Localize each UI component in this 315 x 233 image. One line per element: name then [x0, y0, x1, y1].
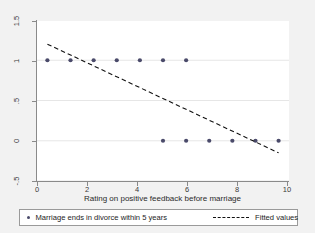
filled-circle-marker-icon	[27, 216, 30, 219]
y-axis-tick-label-point-5: .5	[12, 84, 22, 118]
data-point-marker	[161, 139, 165, 143]
chart-figure: 1.5 1 .5 0 -.5 0 2 4 6 8 10 Rating on po…	[0, 0, 315, 233]
data-point-marker	[207, 139, 211, 143]
y-axis-tick-label-1-5: 1.5	[12, 4, 22, 38]
x-axis-tick-label-10: 10	[276, 185, 298, 194]
x-axis-title: Rating on positive feedback before marri…	[36, 194, 289, 203]
chart-legend: Marriage ends in divorce within 5 years …	[19, 209, 298, 226]
data-point-marker	[230, 139, 234, 143]
x-axis-tick-label-2: 2	[76, 185, 98, 194]
legend-label-scatter: Marriage ends in divorce within 5 years	[35, 213, 167, 222]
data-point-marker	[161, 58, 165, 62]
y-axis-tick-label-0: 0	[12, 124, 22, 158]
data-point-marker	[138, 58, 142, 62]
data-point-marker	[277, 139, 281, 143]
x-axis-tick-label-0: 0	[26, 185, 48, 194]
data-point-marker	[92, 58, 96, 62]
legend-label-fitted: Fitted values	[255, 213, 298, 222]
data-point-marker	[68, 58, 72, 62]
x-axis-tick-label-8: 8	[226, 185, 248, 194]
legend-entry-fitted: Fitted values	[213, 213, 298, 222]
x-axis-tick-label-4: 4	[126, 185, 148, 194]
data-point-marker	[115, 58, 119, 62]
y-axis-tick-label-neg-point-5: -.5	[12, 164, 22, 198]
legend-entry-scatter: Marriage ends in divorce within 5 years	[27, 213, 167, 222]
data-point-marker	[45, 58, 49, 62]
data-point-marker	[184, 139, 188, 143]
x-axis-tick-label-6: 6	[176, 185, 198, 194]
y-axis-tick-label-1: 1	[12, 44, 22, 78]
dashed-line-marker-icon	[213, 217, 249, 218]
plot-area	[36, 20, 289, 182]
plot-canvas	[37, 20, 289, 181]
data-point-marker	[184, 58, 188, 62]
